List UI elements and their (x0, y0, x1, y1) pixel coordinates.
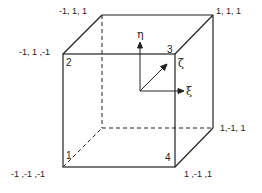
label-back-bottom-right: 1,-1, 1 (220, 123, 246, 133)
eta-label: η (137, 28, 144, 41)
bottom-right-connector (175, 128, 213, 167)
xi-arrowhead-icon (178, 89, 184, 94)
hexahedron-diagram: -1, 1, 1 1, 1, 1 -1, 1 ,-1 1,-1, 1 -1 ,-… (0, 0, 262, 193)
node-number-4: 4 (165, 152, 171, 163)
label-front-bottom-left: -1 ,-1 ,-1 (11, 169, 45, 179)
label-back-top-right: 1, 1, 1 (216, 6, 241, 16)
eta-arrowhead-icon (138, 42, 143, 48)
node-number-2: 2 (66, 57, 72, 68)
top-right-connector (175, 15, 213, 54)
node-number-3: 3 (167, 44, 173, 55)
node-number-1: 1 (66, 150, 72, 161)
xi-label: ξ (186, 85, 192, 98)
top-left-connector (63, 15, 102, 54)
label-front-top-left: -1, 1 ,-1 (19, 47, 50, 57)
label-front-bottom-right: 1 ,-1 ,1 (184, 169, 212, 179)
hidden-bottom-left-connector (63, 128, 102, 167)
zeta-label: ζ (178, 57, 184, 70)
zeta-axis (140, 67, 164, 91)
label-back-top-left: -1, 1, 1 (59, 6, 87, 16)
